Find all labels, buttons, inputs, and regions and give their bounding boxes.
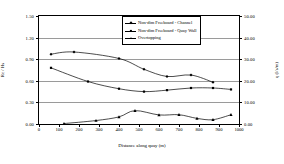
y-axis-tick-mark-left: [36, 59, 39, 60]
y-axis-tick-label-left: 1.20: [6, 35, 34, 40]
y-axis-tick-label-right: 30.00: [244, 57, 274, 62]
y-axis-tick-label-right: 50.00: [244, 14, 274, 19]
x-axis-tick-label: 100: [49, 127, 69, 132]
y-axis-tick-mark-left: [36, 102, 39, 103]
y-axis-tick-label-right: 0.00: [244, 122, 274, 127]
x-axis-tick-mark: [79, 124, 80, 127]
x-axis-tick-mark: [59, 124, 60, 127]
x-axis-tick-label: 800: [189, 127, 209, 132]
y-axis-tick-mark-right: [239, 102, 242, 103]
y-axis-tick-label-right: 10.00: [244, 100, 274, 105]
y-axis-tick-mark-left: [36, 81, 39, 82]
y-axis-tick-label-right: 40.00: [244, 35, 274, 40]
y-axis-tick-mark-left: [36, 16, 39, 17]
legend-marker-diamond-icon: [125, 20, 136, 26]
legend-item-quay-wall: Non-dim Freeboard - Quay Wall: [125, 27, 197, 35]
y-axis-tick-label-left: 0.30: [6, 100, 34, 105]
y-axis-tick-mark-right: [239, 81, 242, 82]
x-axis-tick-label: 0: [29, 127, 49, 132]
gridline: [39, 59, 239, 60]
y-axis-tick-mark-right: [239, 16, 242, 17]
x-axis-tick-mark: [139, 124, 140, 127]
y-axis-tick-label-right: 20.00: [244, 78, 274, 83]
x-axis-tick-mark: [39, 124, 40, 127]
legend-item-channel: Non-dim Freeboard - Channel: [125, 19, 197, 27]
x-axis-tick-label: 1000: [229, 127, 249, 132]
legend-marker-triangle-icon: [125, 35, 136, 41]
legend-item-overtopping: Overtopping: [125, 34, 197, 42]
x-axis-tick-label: 900: [209, 127, 229, 132]
x-axis-tick-label: 500: [129, 127, 149, 132]
x-axis-title: Distance along quay (m): [0, 143, 284, 148]
y-axis-tick-label-left: 0.90: [6, 57, 34, 62]
x-axis-tick-label: 300: [89, 127, 109, 132]
x-axis-tick-label: 600: [149, 127, 169, 132]
x-axis-tick-mark: [239, 124, 240, 127]
x-axis-tick-mark: [99, 124, 100, 127]
x-axis-tick-mark: [119, 124, 120, 127]
x-axis-tick-mark: [219, 124, 220, 127]
legend-label-quay-wall: Non-dim Freeboard - Quay Wall: [138, 27, 197, 35]
legend-marker-square-icon: [125, 28, 136, 34]
y-axis-tick-mark-left: [36, 38, 39, 39]
y-axis-title-left: Rc / Hs: [0, 63, 5, 77]
y-axis-tick-label-left: 0.00: [6, 122, 34, 127]
y-axis-title-right: q (l/s/m): [274, 62, 279, 78]
chart-container: 0.000.300.600.901.201.500.0010.0020.0030…: [0, 0, 284, 164]
gridline: [39, 102, 239, 103]
y-axis-tick-label-left: 0.60: [6, 78, 34, 83]
x-axis-tick-mark: [179, 124, 180, 127]
legend-label-channel: Non-dim Freeboard - Channel: [138, 19, 192, 27]
x-axis-tick-mark: [199, 124, 200, 127]
gridline: [39, 81, 239, 82]
chart-legend: Non-dim Freeboard - Channel Non-dim Free…: [122, 16, 201, 45]
y-axis-tick-label-left: 1.50: [6, 14, 34, 19]
x-axis-tick-label: 400: [109, 127, 129, 132]
x-axis-tick-mark: [159, 124, 160, 127]
x-axis-tick-label: 700: [169, 127, 189, 132]
y-axis-tick-mark-right: [239, 59, 242, 60]
legend-label-overtopping: Overtopping: [138, 34, 161, 42]
x-axis-tick-label: 200: [69, 127, 89, 132]
y-axis-tick-mark-right: [239, 38, 242, 39]
